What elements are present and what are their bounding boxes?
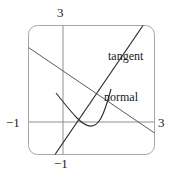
tangent-line-label: tangent — [108, 50, 143, 62]
x-axis-tick-label-right: 3 — [158, 116, 165, 129]
y-axis-tick-label-top: 3 — [57, 6, 64, 19]
plot-canvas — [0, 0, 173, 177]
normal-line-label: normal — [104, 91, 138, 103]
x-axis-tick-label-left: −1 — [6, 116, 20, 129]
graph-figure: 3 3 −1 −1 tangent normal — [0, 0, 173, 177]
y-axis-tick-label-bottom: −1 — [54, 157, 68, 170]
